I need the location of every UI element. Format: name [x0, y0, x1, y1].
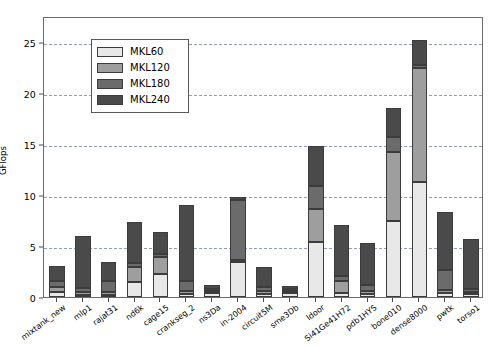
x-tick-mark — [444, 298, 445, 302]
bar-segment-mkl60[interactable] — [360, 294, 376, 297]
bar-group[interactable] — [308, 16, 324, 297]
bar-segment-mkl120[interactable] — [437, 290, 453, 293]
bar-segment-mkl180[interactable] — [127, 263, 143, 267]
bar-segment-mkl60[interactable] — [334, 293, 350, 297]
bar-segment-mkl120[interactable] — [360, 291, 376, 294]
x-tick-mark — [159, 298, 160, 302]
bar-segment-mkl240[interactable] — [101, 262, 117, 280]
bar-segment-mkl60[interactable] — [437, 293, 453, 297]
bar-segment-mkl240[interactable] — [179, 205, 195, 281]
bar-group[interactable] — [75, 16, 91, 297]
bar-segment-mkl120[interactable] — [334, 281, 350, 293]
bar-segment-mkl180[interactable] — [412, 65, 428, 68]
bar-segment-mkl60[interactable] — [412, 182, 428, 297]
bar-group[interactable] — [230, 16, 246, 297]
bar-segment-mkl180[interactable] — [437, 270, 453, 289]
bar-segment-mkl60[interactable] — [256, 294, 272, 297]
x-tick-mark — [134, 298, 135, 302]
y-axis-title: GFlops — [0, 146, 8, 175]
bar-group[interactable] — [360, 16, 376, 297]
bar-segment-mkl180[interactable] — [282, 289, 298, 291]
bar-segment-mkl240[interactable] — [463, 239, 479, 289]
bar-segment-mkl60[interactable] — [463, 294, 479, 297]
bar-segment-mkl120[interactable] — [75, 292, 91, 295]
bar-segment-mkl120[interactable] — [230, 260, 246, 262]
x-tick-mark — [315, 298, 316, 302]
bar-segment-mkl240[interactable] — [386, 108, 402, 137]
bar-group[interactable] — [437, 16, 453, 297]
bar-segment-mkl180[interactable] — [101, 281, 117, 292]
legend-item[interactable]: MKL180 — [97, 76, 183, 92]
legend-item[interactable]: MKL60 — [97, 44, 183, 60]
bar-segment-mkl240[interactable] — [230, 197, 246, 200]
bar-segment-mkl240[interactable] — [75, 236, 91, 288]
bar-segment-mkl60[interactable] — [127, 282, 143, 297]
bar-segment-mkl60[interactable] — [230, 262, 246, 297]
bar-segment-mkl240[interactable] — [127, 222, 143, 263]
bar-segment-mkl60[interactable] — [282, 293, 298, 297]
legend-label: MKL240 — [130, 95, 170, 105]
bar-group[interactable] — [49, 16, 65, 297]
bar-group[interactable] — [334, 16, 350, 297]
bar-group[interactable] — [256, 16, 272, 297]
bar-segment-mkl240[interactable] — [153, 232, 169, 254]
bar-segment-mkl240[interactable] — [334, 225, 350, 275]
bar-group[interactable] — [386, 16, 402, 297]
bar-segment-mkl120[interactable] — [101, 292, 117, 295]
x-tick-mark — [289, 298, 290, 302]
bar-segment-mkl180[interactable] — [49, 281, 65, 287]
x-tick-label: torso1 — [456, 303, 482, 326]
bar-segment-mkl60[interactable] — [386, 221, 402, 297]
bar-segment-mkl240[interactable] — [204, 285, 220, 289]
y-tick-label: 5 — [30, 241, 36, 252]
y-tick-label: 15 — [24, 139, 36, 150]
bar-segment-mkl180[interactable] — [230, 200, 246, 260]
bar-segment-mkl180[interactable] — [256, 287, 272, 291]
bar-segment-mkl120[interactable] — [463, 292, 479, 294]
bar-segment-mkl60[interactable] — [308, 242, 324, 297]
bar-segment-mkl180[interactable] — [153, 254, 169, 257]
bar-segment-mkl120[interactable] — [153, 257, 169, 273]
bar-group[interactable] — [463, 16, 479, 297]
bar-segment-mkl120[interactable] — [282, 291, 298, 293]
bar-segment-mkl180[interactable] — [179, 281, 195, 291]
bar-segment-mkl60[interactable] — [204, 293, 220, 297]
bar-segment-mkl240[interactable] — [282, 286, 298, 289]
bar-segment-mkl180[interactable] — [75, 288, 91, 292]
bar-segment-mkl120[interactable] — [204, 291, 220, 293]
bar-segment-mkl60[interactable] — [153, 274, 169, 298]
bar-group[interactable] — [412, 16, 428, 297]
bar-segment-mkl240[interactable] — [256, 267, 272, 286]
legend-label: MKL60 — [130, 47, 163, 57]
bar-segment-mkl240[interactable] — [308, 146, 324, 186]
bar-segment-mkl180[interactable] — [308, 186, 324, 210]
bar-segment-mkl180[interactable] — [360, 285, 376, 291]
bar-segment-mkl180[interactable] — [204, 289, 220, 291]
bar-segment-mkl120[interactable] — [386, 152, 402, 221]
bar-segment-mkl180[interactable] — [463, 289, 479, 292]
legend-item[interactable]: MKL120 — [97, 60, 183, 76]
bar-segment-mkl120[interactable] — [49, 287, 65, 292]
bar-segment-mkl60[interactable] — [179, 294, 195, 297]
bar-group[interactable] — [282, 16, 298, 297]
bar-segment-mkl120[interactable] — [256, 291, 272, 294]
legend-swatch-icon — [97, 63, 123, 73]
bar-segment-mkl240[interactable] — [49, 266, 65, 280]
bar-segment-mkl60[interactable] — [101, 295, 117, 297]
bar-segment-mkl60[interactable] — [49, 292, 65, 297]
bar-segment-mkl240[interactable] — [412, 40, 428, 66]
bar-segment-mkl180[interactable] — [386, 137, 402, 152]
bar-segment-mkl120[interactable] — [127, 267, 143, 281]
legend-item[interactable]: MKL240 — [97, 92, 183, 108]
bar-segment-mkl120[interactable] — [308, 209, 324, 242]
bar-group[interactable] — [204, 16, 220, 297]
bar-segment-mkl240[interactable] — [360, 243, 376, 285]
bar-segment-mkl180[interactable] — [334, 276, 350, 281]
x-tick-mark — [418, 298, 419, 302]
bar-segment-mkl120[interactable] — [412, 68, 428, 181]
x-tick-label: pwtk — [435, 303, 456, 322]
chart-root: GFlops 0510152025 MKL60MKL120MKL180MKL24… — [0, 0, 498, 347]
bar-segment-mkl120[interactable] — [179, 291, 195, 294]
bar-segment-mkl240[interactable] — [437, 212, 453, 270]
bar-segment-mkl60[interactable] — [75, 295, 91, 297]
